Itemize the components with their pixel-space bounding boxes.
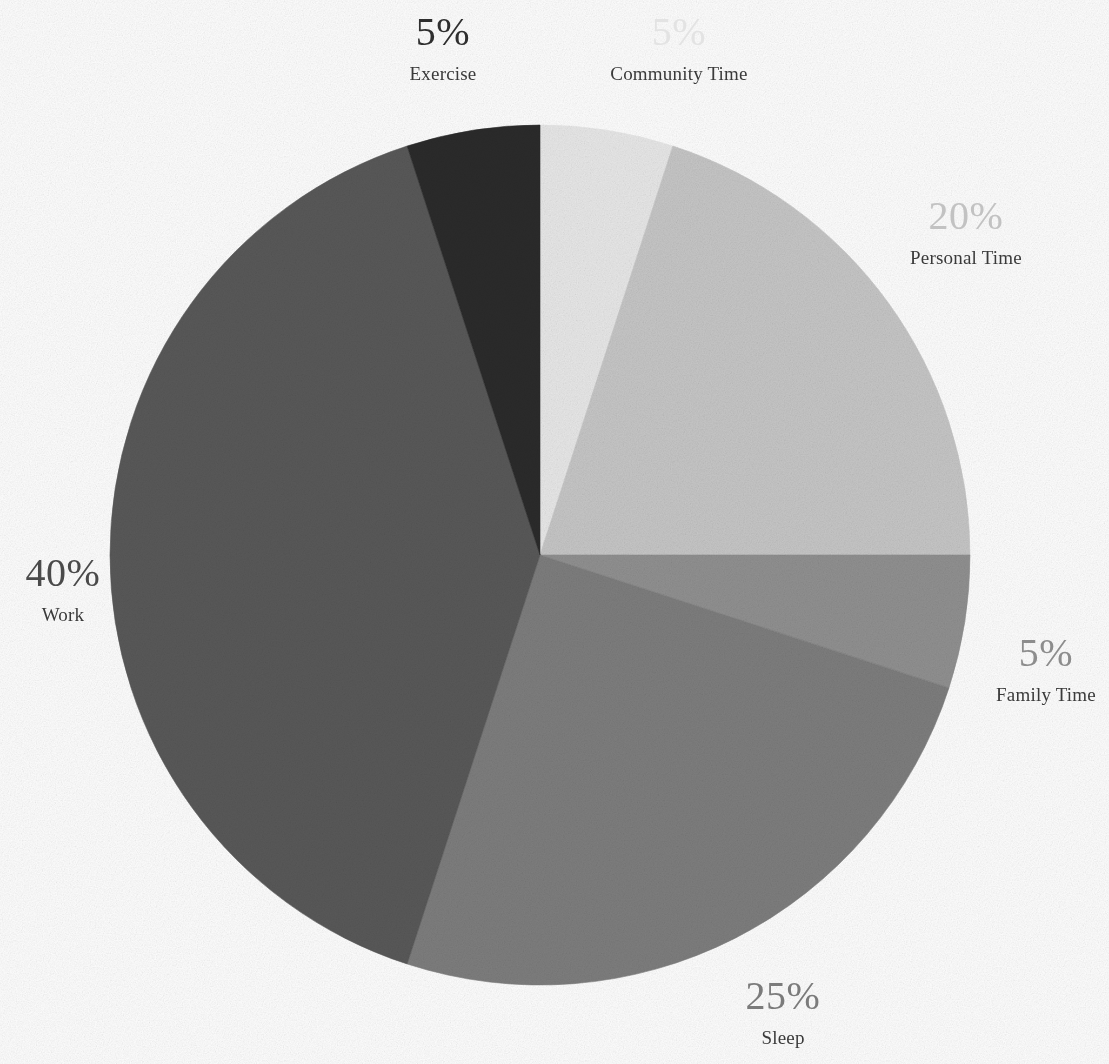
pie-label-family-time-percent: 5% xyxy=(996,633,1096,673)
pie-label-sleep: 25% Sleep xyxy=(746,976,821,1047)
pie-label-personal-time-percent: 20% xyxy=(910,196,1022,236)
pie-label-family-time-category: Family Time xyxy=(996,685,1096,704)
pie-label-family-time: 5% Family Time xyxy=(996,633,1096,704)
pie-slice-group xyxy=(110,125,970,985)
pie-label-exercise: 5% Exercise xyxy=(409,12,476,83)
pie-label-community-time-percent: 5% xyxy=(610,12,747,52)
pie-chart-canvas xyxy=(0,0,1109,1064)
pie-label-personal-time: 20% Personal Time xyxy=(910,196,1022,267)
pie-label-community-time: 5% Community Time xyxy=(610,12,747,83)
pie-label-personal-time-category: Personal Time xyxy=(910,248,1022,267)
pie-chart: 5% Exercise 5% Community Time 20% Person… xyxy=(0,0,1109,1064)
pie-label-exercise-category: Exercise xyxy=(409,64,476,83)
pie-label-community-time-category: Community Time xyxy=(610,64,747,83)
pie-label-exercise-percent: 5% xyxy=(409,12,476,52)
pie-label-work: 40% Work xyxy=(26,553,101,624)
pie-label-work-percent: 40% xyxy=(26,553,101,593)
pie-label-sleep-category: Sleep xyxy=(746,1028,821,1047)
pie-label-sleep-percent: 25% xyxy=(746,976,821,1016)
pie-label-work-category: Work xyxy=(26,605,101,624)
